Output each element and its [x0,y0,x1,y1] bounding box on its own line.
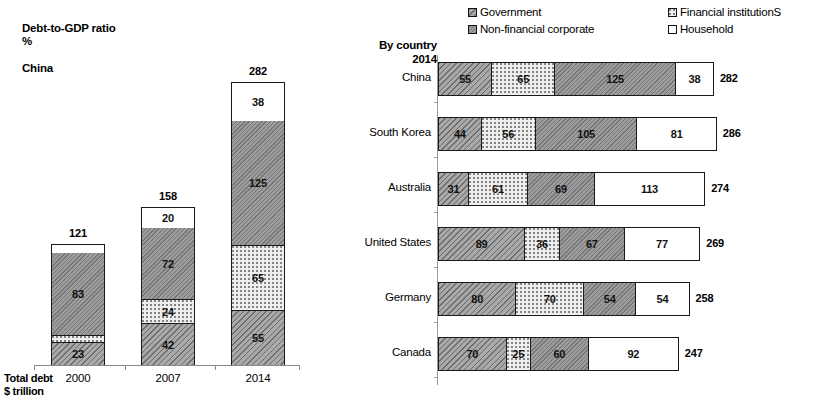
bar-segment-value: 55 [252,332,264,344]
country-row: Australia316169113274 [340,172,821,206]
country-label: Germany [385,291,431,303]
bar-segment-value: 38 [689,73,701,85]
country-row: China556512538282 [340,62,821,96]
bar-segment-government[interactable]: 55 [439,63,492,95]
bar-segment-government[interactable]: 70 [439,338,507,370]
bar-segment-nonfinancial[interactable]: 125 [232,121,284,246]
row-total-label: 269 [706,237,724,249]
bar-segment-financial[interactable]: 25 [507,338,531,370]
bar-segment-government[interactable]: 55 [232,311,284,366]
bar-segment-financial[interactable]: 65 [232,246,284,311]
y-axis-tick [434,267,438,268]
horizontal-stacked-bar[interactable]: 316169113 [438,172,705,206]
bar-segment-household[interactable]: 81 [637,118,715,150]
country-label: United States [365,236,431,248]
row-total-label: 282 [720,72,738,84]
bar-segment-government[interactable]: 44 [439,118,482,150]
left-chart-title: Debt-to-GDP ratio % [22,22,116,48]
bar-segment-value: 25 [512,348,524,360]
bar-segment-household[interactable]: 113 [595,173,704,205]
row-total-label: 274 [711,182,729,194]
bar-segment-nonfinancial[interactable]: 105 [536,118,638,150]
left-chart-footnote: Total debt $ trillion [4,372,53,398]
vertical-stacked-bar[interactable]: 20722442 [141,207,195,365]
horizontal-stacked-bar[interactable]: 89366777 [438,227,700,261]
bar-segment-nonfinancial[interactable]: 69 [528,173,595,205]
bar-segment-value: 31 [448,183,460,195]
bar-segment-government[interactable]: 31 [439,173,469,205]
bar-segment-value: 61 [492,183,504,195]
bar-segment-financial[interactable]: 24 [142,300,194,324]
bar-segment-value: 77 [656,238,668,250]
bar-segment-government[interactable]: 89 [439,228,525,260]
country-label: China [402,71,431,83]
bar-segment-financial[interactable]: 61 [469,173,528,205]
by-country-chart-panel: By country 2014 China556512538282South K… [340,0,821,407]
bar-segment-household[interactable]: 92 [589,338,678,370]
y-axis-tick [434,157,438,158]
bar-segment-value: 38 [252,96,264,108]
bar-segment-value: 65 [517,73,529,85]
right-chart-y-axis [437,55,438,385]
bar-segment-nonfinancial[interactable]: 67 [560,228,625,260]
bar-segment-value: 67 [586,238,598,250]
country-row: Germany80705454258 [340,282,821,316]
bar-segment-household[interactable]: 77 [625,228,700,260]
bar-segment-government[interactable]: 23 [52,343,104,366]
bar-segment-value: 55 [459,73,471,85]
bar-segment-financial[interactable]: 65 [492,63,555,95]
bar-segment-household[interactable]: 38 [232,83,284,121]
row-total-label: 258 [696,292,714,304]
bar-segment-value: 70 [544,293,556,305]
y-axis-tick [434,212,438,213]
china-debt-chart-panel: Debt-to-GDP ratio % China 83231212072244… [0,0,330,407]
bar-segment-financial[interactable] [52,336,104,343]
bar-segment-financial[interactable]: 36 [525,228,560,260]
x-axis-category-label: 2000 [51,372,105,384]
row-total-label: 286 [723,127,741,139]
y-axis-tick [434,322,438,323]
left-chart-plot-area: 832312120722442158381256555282 [34,60,300,365]
x-axis-tick [215,365,216,370]
horizontal-stacked-bar[interactable]: 556512538 [438,62,714,96]
bar-total-label: 282 [231,65,285,77]
row-total-label: 247 [685,347,703,359]
horizontal-stacked-bar[interactable]: 70256092 [438,337,679,371]
bar-segment-value: 65 [252,272,264,284]
bar-segment-financial[interactable]: 70 [516,283,584,315]
bar-segment-value: 70 [466,348,478,360]
horizontal-stacked-bar[interactable]: 80705454 [438,282,690,316]
bar-segment-financial[interactable]: 56 [482,118,536,150]
country-label: Canada [392,346,431,358]
x-axis-tick [125,365,126,370]
bar-segment-value: 24 [162,306,174,318]
bar-segment-household[interactable]: 20 [142,208,194,228]
bar-segment-value: 125 [606,73,624,85]
x-axis-category-label: 2007 [141,372,195,384]
bar-segment-household[interactable] [52,245,104,253]
bar-segment-value: 72 [162,258,174,270]
bar-segment-value: 42 [162,339,174,351]
vertical-stacked-bar[interactable]: 381256555 [231,82,285,365]
bar-segment-nonfinancial[interactable]: 54 [584,283,636,315]
bar-segment-government[interactable]: 42 [142,324,194,366]
bar-segment-value: 105 [577,128,595,140]
y-axis-tick [434,377,438,378]
bar-segment-household[interactable]: 38 [676,63,713,95]
bar-segment-value: 89 [476,238,488,250]
bar-segment-household[interactable]: 54 [636,283,688,315]
bar-segment-nonfinancial[interactable]: 125 [555,63,676,95]
bar-segment-government[interactable]: 80 [439,283,516,315]
bar-segment-nonfinancial[interactable]: 72 [142,228,194,300]
y-axis-tick [434,102,438,103]
bar-segment-value: 125 [249,177,267,189]
horizontal-stacked-bar[interactable]: 445610581 [438,117,717,151]
bar-segment-nonfinancial[interactable]: 83 [52,253,104,336]
bar-segment-value: 36 [536,238,548,250]
country-label: Australia [388,181,431,193]
bar-segment-value: 23 [72,348,84,360]
bar-segment-nonfinancial[interactable]: 60 [531,338,589,370]
bar-segment-value: 56 [502,128,514,140]
vertical-stacked-bar[interactable]: 8323 [51,244,105,365]
country-label: South Korea [369,126,431,138]
